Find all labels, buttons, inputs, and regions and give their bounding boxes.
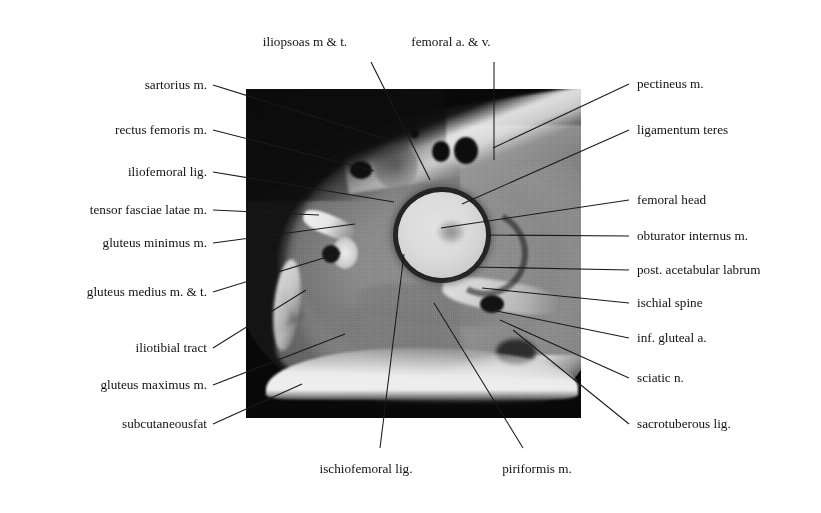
label-obturator-internus: obturator internus m. bbox=[637, 229, 748, 242]
label-iliotibial-tract: iliotibial tract bbox=[0, 341, 207, 354]
label-gluteus-minimus: gluteus minimus m. bbox=[0, 236, 207, 249]
label-iliopsoas: iliopsoas m & t. bbox=[263, 35, 347, 48]
label-femoral-head: femoral head bbox=[637, 193, 706, 206]
label-sacrotuberous-lig: sacrotuberous lig. bbox=[637, 417, 731, 430]
label-sartorius: sartorius m. bbox=[0, 78, 207, 91]
mri-canvas bbox=[246, 89, 581, 418]
label-subcutaneous-fat: subcutaneousfat bbox=[0, 417, 207, 430]
label-tensor-fasciae-latae: tensor fasciae latae m. bbox=[0, 203, 207, 216]
label-ischiofemoral-lig: ischiofemoral lig. bbox=[319, 462, 412, 475]
anatomy-figure: iliopsoas m & t. femoral a. & v. sartori… bbox=[0, 0, 821, 513]
label-ischial-spine: ischial spine bbox=[637, 296, 703, 309]
label-piriformis: piriformis m. bbox=[502, 462, 572, 475]
label-gluteus-maximus: gluteus maximus m. bbox=[0, 378, 207, 391]
label-pectineus: pectineus m. bbox=[637, 77, 704, 90]
label-ligamentum-teres: ligamentum teres bbox=[637, 123, 728, 136]
label-post-acetabular-labrum: post. acetabular labrum bbox=[637, 263, 760, 276]
label-gluteus-medius: gluteus medius m. & t. bbox=[0, 285, 207, 298]
label-rectus-femoris: rectus femoris m. bbox=[0, 123, 207, 136]
mri-image bbox=[246, 89, 581, 418]
label-inf-gluteal-a: inf. gluteal a. bbox=[637, 331, 707, 344]
label-sciatic-n: sciatic n. bbox=[637, 371, 684, 384]
label-iliofemoral-lig: iliofemoral lig. bbox=[0, 165, 207, 178]
label-femoral-vessels: femoral a. & v. bbox=[411, 35, 490, 48]
image-noise-overlay bbox=[246, 89, 581, 418]
